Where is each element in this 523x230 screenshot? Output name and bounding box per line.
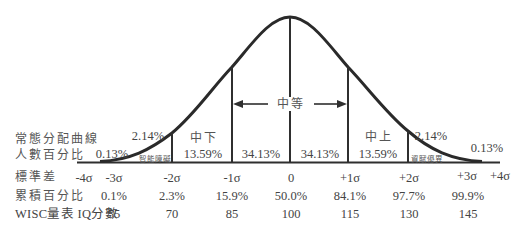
- curve-title-label: 常態分配曲線: [15, 132, 99, 146]
- percent-minus-4-3: 0.13%: [96, 147, 128, 161]
- sd-tick: 0: [288, 171, 294, 185]
- cumulative-value: 2.3%: [159, 189, 185, 203]
- iq-value: 115: [341, 207, 359, 221]
- iq-value: 70: [166, 207, 179, 221]
- percent-minus-1-0: 34.13%: [242, 147, 281, 161]
- iq-value: 100: [282, 207, 301, 221]
- cumulative-value: 97.7%: [393, 189, 425, 203]
- arrow-left-icon: [233, 100, 243, 108]
- sd-tick: +4σ: [490, 169, 510, 183]
- percent-minus-3-2: 2.14%: [132, 129, 164, 143]
- percent-row-label: 人數百分比: [15, 148, 85, 162]
- iq-value: 55: [108, 207, 121, 221]
- cumulative-row-label: 累積百分比: [15, 189, 85, 203]
- percent-minus-2-1: 13.59%: [184, 147, 223, 161]
- gifted-label: 資賦優異: [411, 153, 443, 167]
- iq-value: 85: [226, 207, 239, 221]
- iq-row-label: WISC量表 IQ分數: [15, 207, 118, 221]
- percent-plus-3-4: 0.13%: [471, 141, 503, 155]
- disability-label: 智能障礙: [139, 153, 171, 167]
- cumulative-value: 84.1%: [334, 189, 366, 203]
- cumulative-value: 50.0%: [275, 189, 307, 203]
- arrow-right-icon: [337, 100, 347, 108]
- cumulative-value: 99.9%: [452, 189, 484, 203]
- sd-tick: +2σ: [399, 171, 419, 185]
- cumulative-value: 15.9%: [216, 189, 248, 203]
- sd-tick: -1σ: [223, 171, 240, 185]
- sd-tick: -2σ: [163, 171, 180, 185]
- sd-tick: +3σ: [457, 169, 477, 183]
- percent-0-plus-1: 34.13%: [301, 147, 340, 161]
- middle-label: 中等: [274, 97, 308, 111]
- iq-value: 145: [459, 207, 478, 221]
- cumulative-value: 0.1%: [101, 189, 127, 203]
- sd-tick: -3σ: [105, 171, 122, 185]
- percent-plus-1-2: 13.59%: [359, 147, 398, 161]
- iq-value: 130: [400, 207, 419, 221]
- lower-middle-label: 中下: [190, 131, 218, 145]
- sd-tick: +1σ: [340, 171, 360, 185]
- sd-row-label: 標準差: [15, 170, 57, 184]
- sd-tick: -4σ: [75, 171, 92, 185]
- percent-plus-2-3: 2.14%: [415, 129, 447, 143]
- upper-middle-label: 中上: [365, 130, 393, 144]
